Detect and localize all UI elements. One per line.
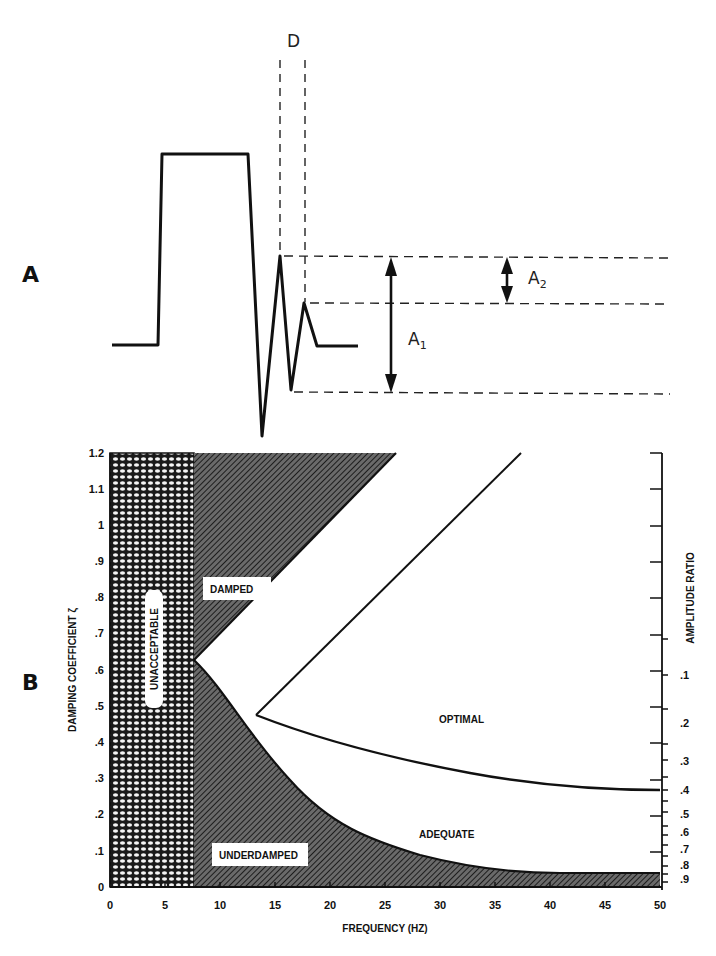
svg-text:10: 10 [214,899,226,911]
svg-text:.4: .4 [680,784,690,796]
svg-text:20: 20 [324,899,336,911]
svg-text:.1: .1 [95,845,104,857]
unacceptable-label-group: UNACCEPTABLE [145,590,163,708]
panel-b: B 0 5 10 [22,447,696,934]
svg-text:.7: .7 [95,627,104,639]
trough-reference-line [294,392,670,394]
svg-text:.3: .3 [95,772,104,784]
svg-text:.5: .5 [680,808,689,820]
y2-axis-ticks [650,453,668,882]
panel-a-label: A [22,262,39,287]
svg-text:.6: .6 [95,664,104,676]
amplitude-a2-arrow [501,257,513,303]
svg-text:15: 15 [269,899,281,911]
svg-text:.6: .6 [680,826,689,838]
underdamped-label: UNDERDAMPED [219,850,298,861]
optimal-lower-boundary [256,715,660,790]
amplitude-a2-label: A2 [528,268,547,291]
peak-1-reference-line [284,256,670,258]
svg-text:45: 45 [599,899,611,911]
x-axis-title: FREQUENCY (HZ) [342,923,427,934]
amplitude-a1-arrow [385,257,397,393]
svg-text:30: 30 [434,899,446,911]
amplitude-a1-label: A1 [408,329,427,352]
peak-2-reference-line [310,303,670,304]
svg-text:40: 40 [544,899,556,911]
unacceptable-label: UNACCEPTABLE [149,608,160,690]
svg-text:50: 50 [654,899,666,911]
underdamped-label-group: UNDERDAMPED [212,843,308,866]
svg-text:.2: .2 [95,808,104,820]
svg-text:1.1: 1.1 [89,483,104,495]
svg-text:.2: .2 [680,717,689,729]
period-d-label: D [287,31,300,51]
svg-text:25: 25 [379,899,391,911]
panel-a: A D A1 A2 [22,31,670,436]
square-wave-trace [112,154,358,436]
y2-axis-title: AMPLITUDE RATIO [685,552,696,644]
damped-label-group: DAMPED [203,577,271,600]
adequate-label: ADEQUATE [419,829,475,840]
panel-b-label: B [22,670,39,695]
svg-text:.5: .5 [95,700,104,712]
y-axis-tick-labels: 0 .1 .2 .3 .4 .5 .6 .7 .8 .9 1 1.1 1.2 [89,447,105,893]
svg-text:.9: .9 [680,873,689,885]
damped-label: DAMPED [210,584,253,595]
svg-text:.1: .1 [680,669,689,681]
x-axis-tick-labels: 0 5 10 15 20 25 30 35 40 45 50 [107,899,666,911]
y2-axis-tick-labels: .1 .2 .3 .4 .5 .6 .7 .8 .9 [680,669,690,885]
svg-text:.9: .9 [95,555,104,567]
svg-text:0: 0 [98,881,104,893]
svg-text:.8: .8 [95,591,104,603]
svg-text:.3: .3 [680,755,689,767]
svg-text:1: 1 [98,519,104,531]
figure-canvas: A D A1 A2 B [0,0,716,956]
svg-text:.7: .7 [680,843,689,855]
y-axis-title: DAMPING COEFFICIENT ζ [67,608,79,732]
svg-text:.8: .8 [680,859,689,871]
svg-text:5: 5 [162,899,168,911]
svg-text:1.2: 1.2 [89,447,104,459]
optimal-label: OPTIMAL [439,714,484,725]
svg-text:0: 0 [107,899,113,911]
svg-text:35: 35 [489,899,501,911]
svg-text:.4: .4 [95,736,105,748]
